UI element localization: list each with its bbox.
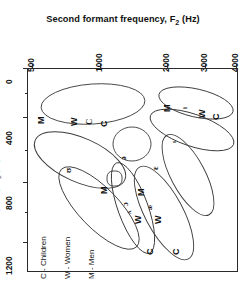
ellipse-ash — [123, 158, 205, 268]
glyph-i-vowel: i — [181, 107, 189, 109]
legend-item-women: W - Women — [63, 237, 72, 279]
ellipse-epsilon — [152, 127, 224, 222]
glyph-ash-women: W — [153, 216, 163, 225]
glyph-ash-men: M — [136, 189, 146, 197]
glyph-i-children: C — [211, 114, 221, 121]
glyph-upsilon: ʊ — [63, 168, 73, 173]
vowel-formant-chart: Second formant frequency, F2 (Hz) First … — [0, 0, 246, 292]
glyph-small-cap-i: ɪ — [170, 141, 178, 143]
glyph-schwa: ə — [118, 156, 128, 160]
glyph-u-men: M — [36, 117, 46, 125]
legend-item-children: C - Children — [39, 236, 48, 279]
legend-item-men: M - Men — [87, 250, 96, 279]
glyph-epsilon: ɛ — [150, 166, 160, 170]
glyph-open-o-men: M — [99, 187, 109, 195]
ellipse-i — [156, 81, 236, 125]
glyph-i-women: W — [197, 110, 207, 119]
glyph-turned-v: ʌ — [125, 211, 133, 215]
glyph-ash-vowel: æ — [146, 205, 154, 210]
glyph-open-o-vowel: ɔ — [120, 202, 130, 206]
glyph-open-o-children: C — [145, 249, 155, 256]
glyph-u-children-2: C — [99, 121, 109, 128]
glyph-ash-children: C — [171, 249, 181, 256]
vowel-ellipses — [0, 0, 246, 292]
glyph-u-women: W — [69, 118, 79, 127]
vowel-ellipse-svg — [0, 0, 246, 292]
glyph-i-men: M — [162, 105, 172, 113]
ellipse-open-o-m-marker — [107, 171, 122, 186]
glyph-open-o-women: W — [133, 216, 143, 225]
glyph-u-children: C — [84, 119, 94, 125]
ellipse-upsilon — [26, 120, 133, 200]
